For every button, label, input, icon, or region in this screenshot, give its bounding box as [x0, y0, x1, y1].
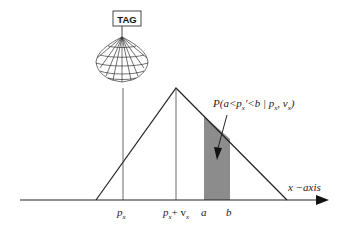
- x-axis-arrowhead: [316, 195, 329, 205]
- tick-label-b: b: [226, 206, 232, 218]
- svg-text:P(a<px'<b | px, vx): P(a<px'<b | px, vx): [212, 97, 295, 112]
- tag-label: TAG: [117, 14, 136, 25]
- x-axis-label: x −axis: [287, 181, 321, 193]
- tick-label-a: a: [201, 206, 207, 218]
- shell-wireframe-icon: [96, 37, 148, 82]
- triangular-distribution-diagram: x −axis px px+ vx a b P(a<px'<b | px, vx…: [0, 0, 343, 229]
- svg-text:px+ vx: px+ vx: [162, 206, 190, 221]
- tick-label-px: px: [116, 206, 127, 221]
- tick-label-px-plus-vx: px+ vx: [162, 206, 190, 221]
- svg-text:px: px: [116, 206, 127, 221]
- probability-annotation: P(a<px'<b | px, vx): [212, 97, 295, 112]
